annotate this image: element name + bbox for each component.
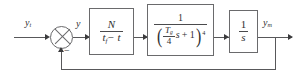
lag-block-time-constant-denominator: 4: [163, 36, 175, 46]
integrator-block-numerator: 1: [239, 19, 249, 31]
integrator-block: 1 s: [229, 10, 258, 53]
output-arrowhead: [288, 34, 293, 40]
output-signal-subscript: m: [267, 21, 271, 28]
gain-block-denominator-rest: − t: [107, 31, 120, 43]
gain-block-numerator: N: [100, 19, 122, 31]
lag-block-time-constant-numerator: Tg: [163, 26, 175, 36]
integrator-block-expression: 1 s: [239, 19, 249, 43]
integrator-block-denominator: s: [239, 31, 249, 44]
gain-block-denominator: tf− t: [100, 31, 122, 44]
feedback-tap-vertical: [275, 37, 276, 69]
lag-block-expression: 1 (Tg4s+ 1)4: [154, 13, 208, 47]
lag-block-paren-close: ): [196, 25, 201, 47]
input-signal-subscript: t: [29, 21, 31, 28]
feedback-minus-sign: −: [64, 45, 70, 56]
output-signal-label: ym: [263, 17, 272, 28]
lag-block-paren-open: (: [157, 25, 162, 47]
lag-block-time-constant-fraction: Tg4: [163, 26, 175, 46]
lag-block-plus-one: + 1: [180, 29, 195, 40]
lag-block-denominator: (Tg4s+ 1)4: [154, 24, 208, 47]
feedback-horizontal: [61, 69, 276, 70]
input-wire: [14, 37, 46, 38]
input-signal-label: yt: [25, 17, 31, 28]
gain-block-expression: N tf− t: [100, 19, 122, 43]
control-block-diagram: yt − y N tf− t 1 (Tg4s+ 1)4: [0, 0, 299, 80]
feedback-riser-vertical: [61, 52, 62, 69]
lag-block-laplace-variable: s: [175, 29, 180, 40]
feedback-arrowhead: [58, 47, 64, 52]
error-signal-label: y: [76, 18, 80, 29]
lag-block-exponent: 4: [202, 29, 205, 36]
lag-block: 1 (Tg4s+ 1)4: [147, 4, 214, 56]
gain-block: N tf− t: [89, 8, 134, 55]
lag-block-time-constant-subscript: g: [170, 29, 173, 35]
